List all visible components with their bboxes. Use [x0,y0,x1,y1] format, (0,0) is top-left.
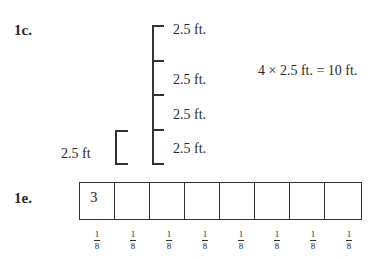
tape-cell [325,183,361,219]
segment-label-1: 2.5 ft. [173,22,206,38]
tape-cell [185,183,220,219]
segment-label-2: 2.5 ft. [173,72,206,88]
tape-cell [255,183,290,219]
fraction: 18 [151,230,187,251]
tape-cell [115,183,150,219]
fraction: 18 [331,230,367,251]
fraction: 18 [187,230,223,251]
problem-1c-label: 1c. [14,22,32,39]
tape-cell [220,183,255,219]
fraction: 18 [295,230,331,251]
segment-label-3: 2.5 ft. [173,107,206,123]
segment-label-4: 2.5 ft. [173,141,206,157]
equation: 4 × 2.5 ft. = 10 ft. [258,63,357,79]
tape-diagram: 3 [79,182,362,220]
tape-cell [150,183,185,219]
fraction-labels: 18 18 18 18 18 18 18 18 [79,230,367,251]
problem-1e-label: 1e. [14,190,32,207]
tape-cell [290,183,325,219]
tape-cell: 3 [80,183,115,219]
fraction: 18 [79,230,115,251]
fraction: 18 [259,230,295,251]
fraction: 18 [223,230,259,251]
unit-label: 2.5 ft [61,146,91,162]
fraction: 18 [115,230,151,251]
